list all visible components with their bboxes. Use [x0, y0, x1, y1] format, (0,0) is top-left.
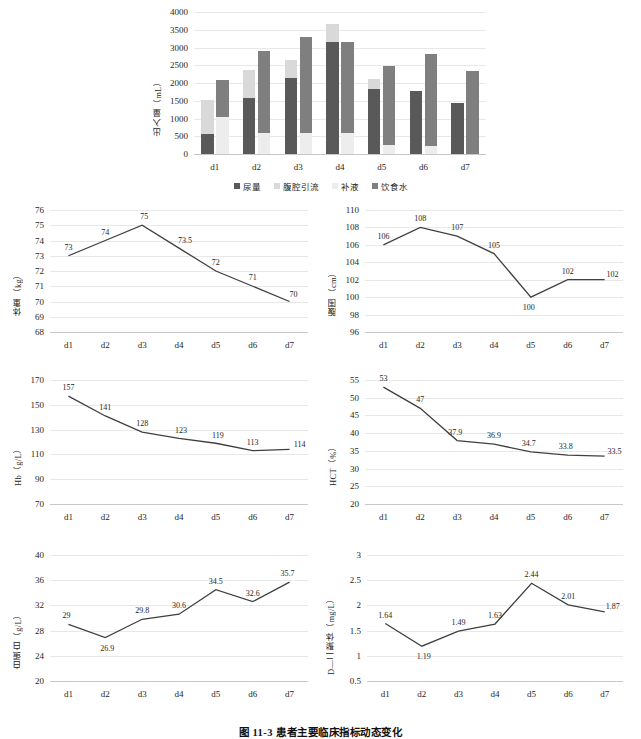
x-axis-tick-label: d6: [248, 689, 257, 699]
x-axis-tick-label: d6: [248, 512, 257, 522]
bar-segment: [368, 79, 381, 89]
x-axis-tick-label: d4: [175, 512, 184, 522]
x-axis-tick-label: d5: [211, 512, 220, 522]
data-point-label: 107: [451, 223, 463, 232]
y-axis-tick-label: 70: [35, 297, 44, 307]
legend-item[interactable]: 补液: [332, 180, 359, 192]
data-point-label: 30.6: [172, 601, 186, 610]
data-point-label: 119: [212, 431, 224, 440]
x-axis-tick-label: d3: [138, 340, 147, 350]
gridline: [194, 12, 486, 13]
data-point-label: 34.7: [522, 438, 536, 447]
x-axis-tick-label: d7: [285, 689, 294, 699]
data-point-label: 74: [101, 227, 109, 236]
x-axis-tick-label: d4: [175, 340, 184, 350]
gridline: [50, 332, 308, 333]
plot-area-intake-output: 05001000150020002500300035004000d1d2d3d4…: [194, 12, 486, 154]
y-axis-tick-label: 4000: [170, 7, 188, 17]
bar-segment: [383, 66, 396, 146]
x-axis-tick-label: d4: [175, 689, 184, 699]
bar-segment: [451, 103, 464, 154]
axis-title-intake-output: 出入量（mL）: [152, 26, 164, 136]
x-axis-tick-label: d3: [138, 512, 147, 522]
x-axis-tick-label: d2: [416, 340, 425, 350]
x-axis-tick-label: d3: [138, 689, 147, 699]
line-series: [365, 210, 623, 332]
y-axis-tick-label: 1: [357, 651, 362, 661]
bar-segment: [410, 91, 423, 154]
line-series: [50, 210, 308, 332]
legend-swatch: [234, 183, 240, 189]
chart-hemoglobin: Hb（g/L） 7090110130150170d1d2d3d4d5d6d715…: [8, 370, 320, 538]
bar-segment: [243, 70, 256, 98]
x-axis-tick-label: d4: [490, 340, 499, 350]
line-series: [50, 380, 308, 504]
data-point-label: 1.64: [378, 610, 392, 619]
data-point-label: 73.5: [178, 236, 192, 245]
y-axis-tick-label: 75: [35, 220, 44, 230]
y-axis-tick-label: 45: [350, 410, 359, 420]
x-axis-tick-label: d5: [211, 689, 220, 699]
legend-item[interactable]: 饮食水: [372, 180, 408, 192]
x-axis-tick-label: d1: [210, 162, 219, 172]
gridline: [194, 30, 486, 31]
data-point-label: 123: [175, 426, 187, 435]
y-axis-tick-label: 1000: [170, 114, 188, 124]
legend-label: 饮食水: [381, 180, 408, 192]
x-axis-tick-label: d1: [64, 340, 73, 350]
gridline: [194, 101, 486, 102]
bar-segment: [425, 54, 438, 146]
data-point-label: 141: [99, 402, 111, 411]
y-axis-tick-label: 69: [35, 312, 44, 322]
bar-segment: [368, 89, 381, 154]
x-axis-tick-label: d2: [417, 689, 426, 699]
data-point-label: 113: [247, 437, 259, 446]
y-axis-tick-label: 90: [35, 474, 44, 484]
y-axis-tick-label: 0: [184, 149, 189, 159]
x-axis-tick-label: d3: [453, 512, 462, 522]
x-axis-tick-label: d2: [101, 512, 110, 522]
y-axis-tick-label: 100: [346, 292, 360, 302]
y-axis-tick-label: 102: [346, 275, 360, 285]
legend-swatch: [332, 183, 338, 189]
data-point-label: 102: [607, 269, 619, 278]
x-axis-tick-label: d1: [64, 689, 73, 699]
data-point-label: 26.9: [100, 643, 114, 652]
y-axis-tick-label: 72: [35, 266, 44, 276]
legend-intake-output: 尿量腹腔引流补液饮食水: [150, 180, 491, 192]
x-axis-tick-label: d6: [248, 340, 257, 350]
gridline: [367, 681, 623, 682]
line-series: [365, 380, 623, 504]
x-axis-tick-label: d5: [526, 340, 535, 350]
y-axis-tick-label: 20: [35, 676, 44, 686]
y-axis-tick-label: 25: [350, 481, 359, 491]
y-axis-tick-label: 2: [357, 600, 362, 610]
data-point-label: 1.63: [488, 611, 502, 620]
x-axis-tick-label: d1: [379, 340, 388, 350]
axis-title-hemoglobin: Hb（g/L）: [12, 406, 24, 486]
bar-segment: [300, 37, 313, 134]
legend-swatch: [274, 183, 280, 189]
x-axis-tick-label: d7: [600, 340, 609, 350]
legend-item[interactable]: 腹腔引流: [274, 180, 319, 192]
legend-item[interactable]: 尿量: [234, 180, 261, 192]
data-point-label: 53: [379, 374, 387, 383]
data-point-label: 29.8: [135, 606, 149, 615]
y-axis-tick-label: 1.5: [350, 626, 361, 636]
plot-area-hematocrit: 2025303540455055d1d2d3d4d5d6d7534737.936…: [365, 380, 623, 504]
y-axis-tick-label: 68: [35, 327, 44, 337]
legend-swatch: [372, 183, 378, 189]
y-axis-tick-label: 150: [31, 400, 45, 410]
data-point-label: 70: [290, 289, 298, 298]
x-axis-tick-label: d5: [526, 512, 535, 522]
y-axis-tick-label: 32: [35, 600, 44, 610]
data-point-label: 33.8: [559, 442, 573, 451]
gridline: [194, 154, 486, 155]
bar-segment: [201, 134, 214, 154]
data-point-label: 47: [416, 395, 424, 404]
y-axis-tick-label: 70: [35, 499, 44, 509]
y-axis-tick-label: 3000: [170, 43, 188, 53]
data-point-label: 37.9: [448, 427, 462, 436]
x-axis-tick-label: d7: [600, 689, 609, 699]
y-axis-tick-label: 73: [35, 251, 44, 261]
